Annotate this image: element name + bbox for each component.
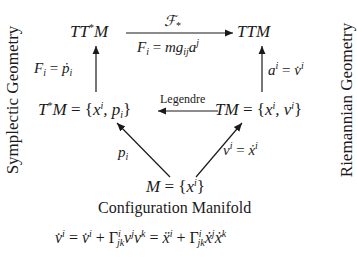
label-force-metric: Fi = mgijaj (137, 37, 199, 57)
label-force-momentum: Fi = ṗi (34, 60, 72, 78)
label-velocity: vi = ẋi (223, 140, 258, 159)
equation-geodesic: v̇i = v̇i + Γijkvjvk = ẍi + Γijkẋjẋk (55, 228, 226, 248)
node-m: M = {xi} (146, 177, 205, 197)
caption-symplectic-geometry: Symplectic Geometry (3, 15, 23, 185)
label-acceleration: ai = v̇i (268, 60, 304, 79)
label-momentum: pi (118, 144, 128, 162)
node-tm: TM = {xi, vi} (215, 100, 302, 120)
label-pushforward: ℱ* (164, 12, 181, 31)
node-ttstar-m: TT*M (70, 22, 108, 42)
caption-riemannian-geometry: Riemannian Geometry (337, 15, 357, 185)
node-tstar-m: T*M = {xi, pi} (38, 100, 131, 120)
caption-configuration-manifold: Configuration Manifold (98, 199, 251, 217)
label-legendre: Legendre (160, 92, 205, 107)
node-ttm: TTM (237, 22, 270, 42)
